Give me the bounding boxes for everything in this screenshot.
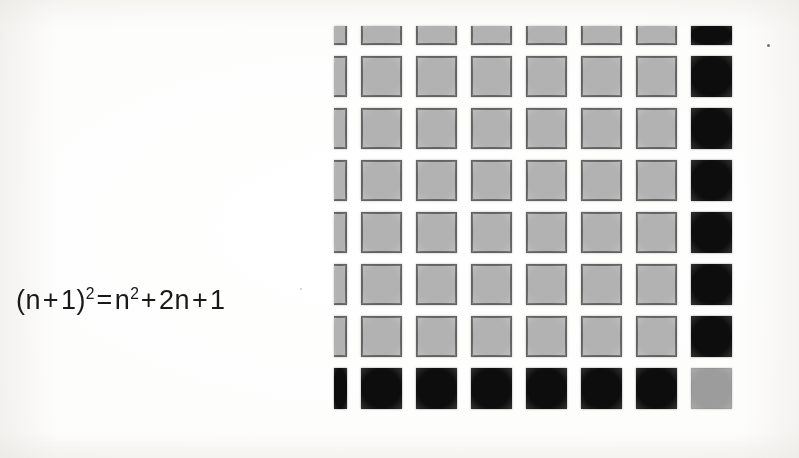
grid-cell-gray-r4-c1 bbox=[334, 160, 347, 201]
formula-lhs-exponent: 2 bbox=[86, 285, 95, 302]
formula-open-paren: ( bbox=[16, 285, 25, 315]
grid-cell-black-r8-c2 bbox=[361, 368, 402, 409]
formula-rhs-two-n: 2n bbox=[159, 285, 190, 315]
formula-rhs-exponent: 2 bbox=[130, 285, 139, 302]
grid-cell-gray-r5-c2 bbox=[361, 212, 402, 253]
grid-cell-black-r3-c8 bbox=[691, 108, 732, 149]
grid-cell-black-r8-c4 bbox=[471, 368, 512, 409]
grid-cell-gray-r2-c4 bbox=[471, 56, 512, 97]
grid-cell-gray-r3-c5 bbox=[526, 108, 567, 149]
grid-cell-black-r8-c6 bbox=[581, 368, 622, 409]
grid-cell-gray-r4-c3 bbox=[416, 160, 457, 201]
grid-cell-gray-r4-c4 bbox=[471, 160, 512, 201]
formula-rhs-one: 1 bbox=[210, 285, 225, 315]
formula-lhs-base: n bbox=[25, 285, 40, 315]
grid-cell-gray-r3-c3 bbox=[416, 108, 457, 149]
square-grid bbox=[334, 26, 764, 432]
grid-cell-black-r1-c8 bbox=[691, 26, 732, 45]
grid-cell-gray-r6-c1 bbox=[334, 264, 347, 305]
scan-speck-secondary-icon bbox=[300, 288, 302, 290]
grid-cell-black-r6-c8 bbox=[691, 264, 732, 305]
grid-cell-gray-r2-c3 bbox=[416, 56, 457, 97]
grid-cell-gray-r1-c7 bbox=[636, 26, 677, 45]
grid-cell-gray-r1-c3 bbox=[416, 26, 457, 45]
grid-cell-gray-r2-c6 bbox=[581, 56, 622, 97]
scan-speck-icon bbox=[767, 44, 770, 47]
grid-cell-gray-r4-c2 bbox=[361, 160, 402, 201]
formula-close-paren: ) bbox=[76, 285, 85, 315]
grid-cell-gray-r5-c1 bbox=[334, 212, 347, 253]
grid-cell-gray-r3-c4 bbox=[471, 108, 512, 149]
formula-rhs-plus-2: + bbox=[190, 285, 210, 315]
grid-cell-gray-r1-c6 bbox=[581, 26, 622, 45]
formula-lhs-one: 1 bbox=[61, 285, 76, 315]
grid-cell-gray-r2-c5 bbox=[526, 56, 567, 97]
grid-cell-gray-r5-c6 bbox=[581, 212, 622, 253]
grid-cell-corner-r8-c8 bbox=[691, 368, 732, 409]
grid-cell-gray-r6-c3 bbox=[416, 264, 457, 305]
grid-cell-gray-r1-c4 bbox=[471, 26, 512, 45]
grid-cell-black-r7-c8 bbox=[691, 316, 732, 357]
grid-cell-gray-r5-c4 bbox=[471, 212, 512, 253]
grid-cell-black-r8-c5 bbox=[526, 368, 567, 409]
grid-cell-gray-r6-c7 bbox=[636, 264, 677, 305]
formula-rhs-n: n bbox=[115, 285, 130, 315]
grid-cell-gray-r6-c6 bbox=[581, 264, 622, 305]
grid-cell-gray-r7-c4 bbox=[471, 316, 512, 357]
grid-cell-black-r8-c7 bbox=[636, 368, 677, 409]
grid-cell-black-r8-c1 bbox=[334, 368, 347, 409]
formula-expression: (n+1)2=n2+2n+1 bbox=[16, 285, 225, 316]
grid-cell-gray-r7-c6 bbox=[581, 316, 622, 357]
grid-cell-black-r4-c8 bbox=[691, 160, 732, 201]
grid-cell-gray-r6-c4 bbox=[471, 264, 512, 305]
grid-cell-black-r2-c8 bbox=[691, 56, 732, 97]
grid-cell-gray-r1-c2 bbox=[361, 26, 402, 45]
grid-cell-gray-r7-c5 bbox=[526, 316, 567, 357]
grid-cell-gray-r2-c1 bbox=[334, 56, 347, 97]
grid-cell-black-r8-c3 bbox=[416, 368, 457, 409]
grid-cell-gray-r3-c1 bbox=[334, 108, 347, 149]
grid-cell-gray-r5-c3 bbox=[416, 212, 457, 253]
grid-cell-black-r5-c8 bbox=[691, 212, 732, 253]
grid-cell-gray-r3-c2 bbox=[361, 108, 402, 149]
algebraic-formula: (n+1)2=n2+2n+1 bbox=[16, 278, 316, 322]
grid-cell-gray-r7-c1 bbox=[334, 316, 347, 357]
grid-cell-gray-r7-c2 bbox=[361, 316, 402, 357]
grid-cell-gray-r4-c6 bbox=[581, 160, 622, 201]
grid-cell-gray-r7-c7 bbox=[636, 316, 677, 357]
grid-cell-gray-r1-c5 bbox=[526, 26, 567, 45]
grid-cell-gray-r4-c7 bbox=[636, 160, 677, 201]
grid-cell-gray-r1-c1 bbox=[334, 26, 347, 45]
formula-rhs-plus-1: + bbox=[139, 285, 159, 315]
grid-cell-gray-r7-c3 bbox=[416, 316, 457, 357]
scanned-figure-page: (n+1)2=n2+2n+1 bbox=[0, 0, 799, 458]
grid-cell-gray-r6-c2 bbox=[361, 264, 402, 305]
grid-cell-gray-r5-c5 bbox=[526, 212, 567, 253]
grid-cell-gray-r6-c5 bbox=[526, 264, 567, 305]
grid-cell-gray-r2-c2 bbox=[361, 56, 402, 97]
formula-lhs-plus: + bbox=[41, 285, 61, 315]
grid-cell-gray-r3-c7 bbox=[636, 108, 677, 149]
grid-cell-gray-r5-c7 bbox=[636, 212, 677, 253]
grid-cell-gray-r2-c7 bbox=[636, 56, 677, 97]
grid-cell-gray-r4-c5 bbox=[526, 160, 567, 201]
formula-equals: = bbox=[95, 285, 115, 315]
grid-cell-gray-r3-c6 bbox=[581, 108, 622, 149]
